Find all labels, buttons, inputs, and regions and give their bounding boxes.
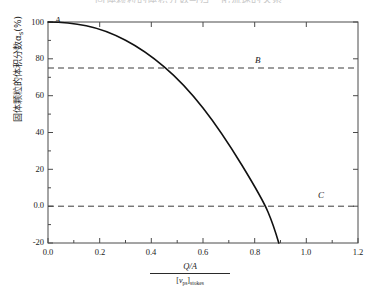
y-axis-title-sub: s: [17, 32, 25, 35]
chart-page: 固体颗粒的体积分数与归一化流速的关系: [0, 0, 378, 292]
x-tick-label-0-0: 0.0: [33, 247, 63, 257]
y-right-ticks: [353, 22, 358, 206]
plot-frame: [48, 22, 358, 243]
x-tick-label-0-2: 0.2: [85, 247, 115, 257]
y-axis-title-main: 固体颗粒的体积分数α: [13, 35, 23, 122]
x-axis-title: Q/A [vps]stokes: [150, 261, 230, 289]
x-tick-label-1-2: 1.2: [343, 247, 373, 257]
annotation-label-b: B: [255, 55, 261, 65]
annotation-label-c: C: [318, 190, 324, 200]
y-axis-title-unit: (%): [13, 16, 23, 32]
stokes-subscript: stokes: [190, 280, 204, 286]
y-tick-label-0: 0.0: [14, 200, 44, 210]
y-tick-label-20: 20: [14, 164, 44, 174]
x-tick-label-1-0: 1.0: [291, 247, 321, 257]
y-tick-label-minus-20: -20: [11, 237, 44, 247]
solid-fraction-curve: [48, 22, 279, 243]
x-top-ticks: [100, 22, 307, 27]
x-axis-title-numerator: Q/A: [150, 261, 230, 273]
y-major-ticks: [48, 22, 53, 243]
x-tick-label-0-8: 0.8: [240, 247, 270, 257]
x-tick-label-0-6: 0.6: [188, 247, 218, 257]
annotation-label-a: A: [55, 15, 61, 25]
y-axis-title: 固体颗粒的体积分数αs(%): [11, 0, 25, 149]
x-tick-label-0-4: 0.4: [136, 247, 166, 257]
x-axis-title-denominator: [vps]stokes: [150, 273, 230, 289]
x-major-ticks: [48, 238, 358, 243]
